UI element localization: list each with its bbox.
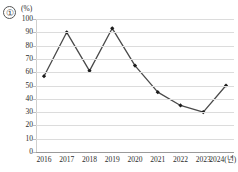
x-axis-tick-label: 2017	[59, 155, 74, 164]
series-markers	[42, 26, 228, 114]
gridline	[36, 32, 234, 33]
gridline	[36, 152, 234, 153]
y-axis-unit-label: (%)	[21, 4, 32, 13]
x-axis-tick-label: 2016	[37, 155, 52, 164]
x-axis-tick-label: 2021	[150, 155, 165, 164]
gridline	[36, 19, 234, 20]
gridline	[36, 125, 234, 126]
x-axis-tick-label: 2019	[105, 155, 120, 164]
x-axis-tick-label: 2020	[128, 155, 143, 164]
x-axis-tick-label: 2022	[173, 155, 188, 164]
gridline	[36, 72, 234, 73]
plot-area	[36, 19, 234, 152]
y-axis-tick-marks	[0, 19, 36, 152]
gridline	[36, 99, 234, 100]
gridline	[36, 112, 234, 113]
x-axis-tick-label: 2024(년)	[209, 155, 236, 164]
gridline	[36, 59, 234, 60]
x-axis-tick-labels: 201620172018201920202021202220232024(년)	[36, 155, 234, 169]
gridline	[36, 86, 234, 87]
gridline	[36, 139, 234, 140]
gridline	[36, 46, 234, 47]
x-axis-tick-label: 2018	[82, 155, 97, 164]
chart-figure: ① (%) 1009080706050403020100 20162017201…	[0, 0, 238, 172]
